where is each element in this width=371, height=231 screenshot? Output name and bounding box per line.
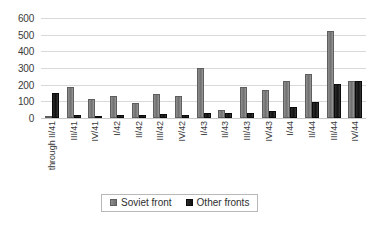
x-axis-label-cell: through II/41 <box>41 119 63 181</box>
x-axis-tick-label: through II/41 <box>47 121 57 170</box>
bar <box>67 87 74 118</box>
bar <box>312 102 319 118</box>
bar <box>139 115 146 118</box>
bar <box>204 113 211 118</box>
x-axis-label-cell: I/43 <box>193 119 215 181</box>
x-axis-label-cell: III/44 <box>323 119 345 181</box>
bar <box>88 99 95 118</box>
y-axis-tick: 100 <box>18 96 34 107</box>
bar <box>269 111 276 118</box>
bar <box>262 90 269 118</box>
soviet-front-swatch-icon <box>110 199 117 206</box>
x-axis-label-cell: III/41 <box>63 119 85 181</box>
bar-group <box>214 18 236 118</box>
x-axis-label-cell: IV/42 <box>171 119 193 181</box>
x-axis-tick-label: I/42 <box>112 121 122 136</box>
x-axis-label-cell: II/43 <box>214 119 236 181</box>
bar <box>110 96 117 119</box>
y-axis-tick: 200 <box>18 79 34 90</box>
bar <box>334 84 341 118</box>
y-axis-tick: 500 <box>18 29 34 40</box>
x-axis-tick-label: I/44 <box>285 121 295 136</box>
legend-label: Soviet front <box>121 197 172 208</box>
x-axis-tick-label: II/42 <box>134 121 144 138</box>
x-axis-labels: through II/41III/41IV/41I/42II/42III/42I… <box>41 119 366 181</box>
bar-group <box>128 18 150 118</box>
bar <box>52 93 59 118</box>
x-axis-label-cell: IV/41 <box>84 119 106 181</box>
bar <box>117 115 124 118</box>
bar <box>218 110 225 118</box>
x-axis-tick-label: III/41 <box>69 121 79 140</box>
bar-group <box>41 18 63 118</box>
bar <box>74 115 81 118</box>
bar <box>327 31 334 118</box>
bar <box>182 115 189 118</box>
bar <box>225 113 232 118</box>
bar <box>240 87 247 118</box>
bar-group <box>279 18 301 118</box>
chart-legend: Soviet front Other fronts <box>101 194 258 212</box>
x-axis-tick-label: II/44 <box>307 121 317 138</box>
legend-item-soviet-front: Soviet front <box>110 197 172 208</box>
x-axis-label-cell: I/44 <box>279 119 301 181</box>
bar <box>283 81 290 119</box>
bar <box>132 103 139 118</box>
bar-group <box>193 18 215 118</box>
legend-item-other-fronts: Other fronts <box>186 197 250 208</box>
x-axis-label-cell: II/42 <box>128 119 150 181</box>
y-axis-tick: 0 <box>29 113 34 124</box>
bar <box>160 114 167 118</box>
legend-label: Other fronts <box>197 197 250 208</box>
x-axis-tick-label: I/43 <box>199 121 209 136</box>
bar-group <box>63 18 85 118</box>
bar-group <box>258 18 280 118</box>
bar-group <box>301 18 323 118</box>
x-axis-tick-label: IV/41 <box>90 121 100 142</box>
bar-groups <box>41 18 366 118</box>
bar-group <box>84 18 106 118</box>
x-axis-tick-label: III/42 <box>155 121 165 140</box>
bar <box>197 68 204 118</box>
y-axis-tick: 400 <box>18 46 34 57</box>
bar <box>95 116 102 119</box>
x-axis-tick-label: IV/44 <box>350 121 360 142</box>
bar <box>153 94 160 118</box>
y-axis-tick: 600 <box>18 13 34 24</box>
x-axis-label-cell: III/42 <box>149 119 171 181</box>
y-axis: 600 500 400 300 200 100 0 <box>0 18 38 118</box>
x-axis-tick-label: II/43 <box>220 121 230 138</box>
x-axis-tick-label: III/43 <box>242 121 252 140</box>
bar-chart: 600 500 400 300 200 100 0 through II/41I… <box>0 0 371 231</box>
bar <box>247 113 254 118</box>
bar <box>290 107 297 118</box>
x-axis-label-cell: II/44 <box>301 119 323 181</box>
bar <box>45 116 52 118</box>
bar <box>348 81 355 119</box>
bar-group <box>323 18 345 118</box>
y-axis-tick: 300 <box>18 63 34 74</box>
bar-group <box>149 18 171 118</box>
x-axis-label-cell: I/42 <box>106 119 128 181</box>
x-axis-tick-label: IV/42 <box>177 121 187 142</box>
bar-group <box>106 18 128 118</box>
x-axis-label-cell: IV/44 <box>344 119 366 181</box>
bar-group <box>171 18 193 118</box>
x-axis-tick-label: III/44 <box>329 121 339 140</box>
bar <box>355 81 362 119</box>
x-axis-label-cell: IV/43 <box>258 119 280 181</box>
bar <box>305 74 312 118</box>
other-fronts-swatch-icon <box>186 199 193 206</box>
bar <box>175 96 182 119</box>
bar-group <box>236 18 258 118</box>
bar-group <box>344 18 366 118</box>
x-axis-label-cell: III/43 <box>236 119 258 181</box>
x-axis-tick-label: IV/43 <box>264 121 274 142</box>
plot-area <box>41 18 366 118</box>
